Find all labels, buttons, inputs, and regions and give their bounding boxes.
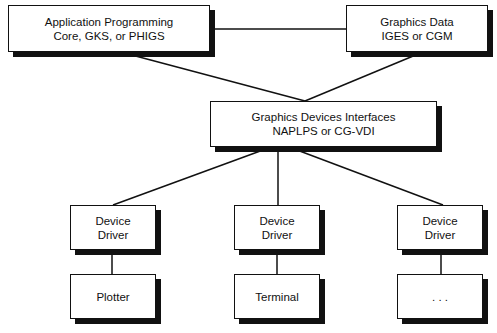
node-label: Terminal [255, 290, 298, 304]
node-application-programming: Application Programming Core, GKS, or PH… [8, 5, 210, 52]
node-label: Plotter [96, 290, 129, 304]
node-device-driver-3: Device Driver [397, 205, 483, 250]
node-sublabel: IGES or CGM [382, 29, 453, 43]
node-label: . . . [432, 290, 448, 304]
node-sublabel: Driver [425, 228, 456, 242]
node-sublabel: Driver [262, 228, 293, 242]
node-label: Graphics Data [380, 15, 454, 29]
node-terminal: Terminal [234, 274, 320, 319]
edge-gdi-dd1 [113, 150, 263, 205]
node-sublabel: Core, GKS, or PHIGS [53, 29, 164, 43]
node-sublabel: NAPLPS or CG-VDI [272, 124, 374, 138]
node-label: Device [422, 214, 457, 228]
node-label: Graphics Devices Interfaces [252, 110, 396, 124]
node-label: Device [259, 214, 294, 228]
node-plotter: Plotter [70, 274, 156, 319]
edge-app-gdi [128, 54, 305, 101]
node-graphics-devices-interfaces: Graphics Devices Interfaces NAPLPS or CG… [210, 101, 437, 147]
node-graphics-data: Graphics Data IGES or CGM [346, 5, 488, 52]
edge-gdata-gdi [305, 54, 418, 101]
node-label: Application Programming [45, 15, 173, 29]
edge-gdi-dd3 [297, 150, 443, 205]
node-label: Device [95, 214, 130, 228]
node-sublabel: Driver [98, 228, 129, 242]
node-device-driver-1: Device Driver [70, 205, 156, 250]
node-device-driver-2: Device Driver [234, 205, 320, 250]
node-other-devices: . . . [397, 274, 483, 319]
